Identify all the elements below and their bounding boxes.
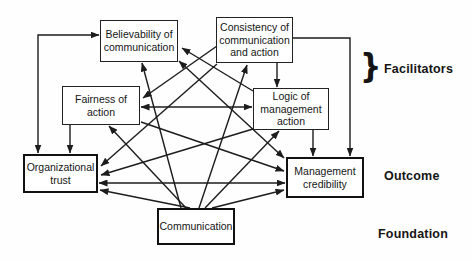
foundation-label: Foundation	[378, 227, 448, 241]
edge-consistency-credibility-loop	[293, 38, 350, 156]
edge-communication-fairness	[109, 126, 186, 208]
diagram-canvas: Believability ofcommunicationConsistency…	[0, 0, 472, 261]
edge-believability-credibility	[179, 61, 284, 158]
outcome-label: Outcome	[384, 169, 440, 183]
diagram-arrows	[0, 0, 472, 261]
edge-communication-credibility	[212, 190, 284, 208]
facilitators-brace: }	[360, 50, 381, 84]
edge-consistency-fairness	[143, 46, 217, 98]
edge-fairness-credibility	[141, 122, 284, 171]
facilitators-label: Facilitators	[384, 62, 453, 76]
edge-trust-believability	[38, 35, 99, 153]
